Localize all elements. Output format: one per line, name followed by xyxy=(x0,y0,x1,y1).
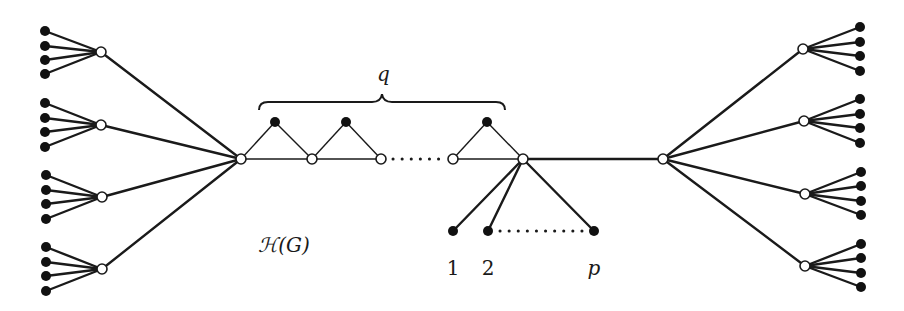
graph-name-label: ℋ(G) xyxy=(258,233,310,257)
left-leaf-edges xyxy=(45,31,102,291)
left-hub-edges xyxy=(101,52,241,269)
right-leaf-vertices xyxy=(855,22,866,292)
pendant-label-2: 2 xyxy=(482,256,495,280)
pendant-label-1: 1 xyxy=(447,256,460,280)
pendant-edges xyxy=(453,159,594,231)
brace xyxy=(259,94,505,110)
open-vertices xyxy=(96,44,810,274)
right-hub-edges xyxy=(663,49,805,266)
brace-label-q: q xyxy=(377,62,390,86)
pendant-label-p: p xyxy=(588,256,601,280)
pendant-vertices xyxy=(448,226,599,236)
right-leaf-edges xyxy=(803,27,861,287)
graph-diagram: q ℋ(G) 1 2 p xyxy=(0,0,904,311)
left-leaf-vertices xyxy=(40,26,51,296)
triangle-top-vertices xyxy=(270,117,492,127)
